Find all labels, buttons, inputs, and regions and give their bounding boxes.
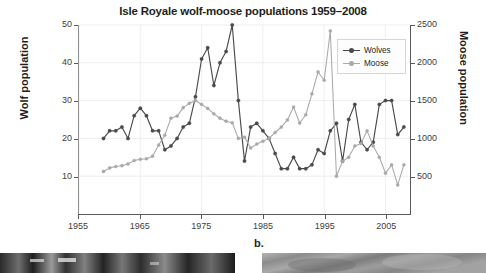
chart-legend: Wolves Moose	[337, 39, 406, 74]
panel-letter-label: b.	[254, 237, 264, 249]
x-tick-1955: 1955	[58, 221, 98, 231]
y-tick-right-2000: 2000	[417, 57, 451, 67]
y-tickmark-right	[411, 25, 415, 26]
x-tick-2005: 2005	[366, 221, 406, 231]
x-tickmark	[263, 215, 264, 219]
y-tick-right-1000: 1000	[417, 133, 451, 143]
y-tick-right-500: 500	[417, 171, 451, 181]
x-tickmark	[201, 215, 202, 219]
x-tickmark	[386, 215, 387, 219]
legend-label-wolves: Wolves	[364, 44, 391, 57]
y-tickmark-left	[74, 101, 78, 102]
y-tickmark-left	[74, 177, 78, 178]
y-tick-left-10: 10	[42, 171, 72, 181]
photo-wolves	[0, 253, 235, 273]
y-tick-left-50: 50	[42, 19, 72, 29]
figure-panel-b: Isle Royale wolf-moose populations 1959–…	[0, 0, 486, 273]
y-tickmark-left	[74, 25, 78, 26]
chart-title: Isle Royale wolf-moose populations 1959–…	[0, 5, 486, 17]
photo-moose-image	[262, 253, 486, 273]
y-tick-left-30: 30	[42, 95, 72, 105]
x-tick-1985: 1985	[243, 221, 283, 231]
y-tickmark-right	[411, 63, 415, 64]
photo-moose	[262, 253, 486, 273]
x-tick-1975: 1975	[181, 221, 221, 231]
legend-swatch-wolves	[343, 47, 360, 54]
y-tick-right-1500: 1500	[417, 95, 451, 105]
y-tickmark-left	[74, 63, 78, 64]
legend-item-wolves[interactable]: Wolves	[343, 44, 401, 57]
y-axis-left-title: Wolf population	[18, 8, 30, 148]
y-tick-left-20: 20	[42, 133, 72, 143]
y-axis-right-title: Moose population	[458, 8, 470, 148]
x-tickmark	[140, 215, 141, 219]
y-tick-right-2500: 2500	[417, 19, 451, 29]
y-tickmark-right	[411, 101, 415, 102]
legend-item-moose[interactable]: Moose	[343, 57, 401, 70]
y-tickmark-right	[411, 139, 415, 140]
y-tickmark-right	[411, 177, 415, 178]
x-tick-1965: 1965	[120, 221, 160, 231]
photo-wolves-image	[0, 253, 235, 273]
legend-swatch-moose	[343, 60, 360, 67]
x-tickmark	[78, 215, 79, 219]
x-tick-1995: 1995	[305, 221, 345, 231]
x-tickmark	[325, 215, 326, 219]
y-tickmark-left	[74, 139, 78, 140]
legend-label-moose: Moose	[364, 57, 389, 70]
y-tick-left-40: 40	[42, 57, 72, 67]
